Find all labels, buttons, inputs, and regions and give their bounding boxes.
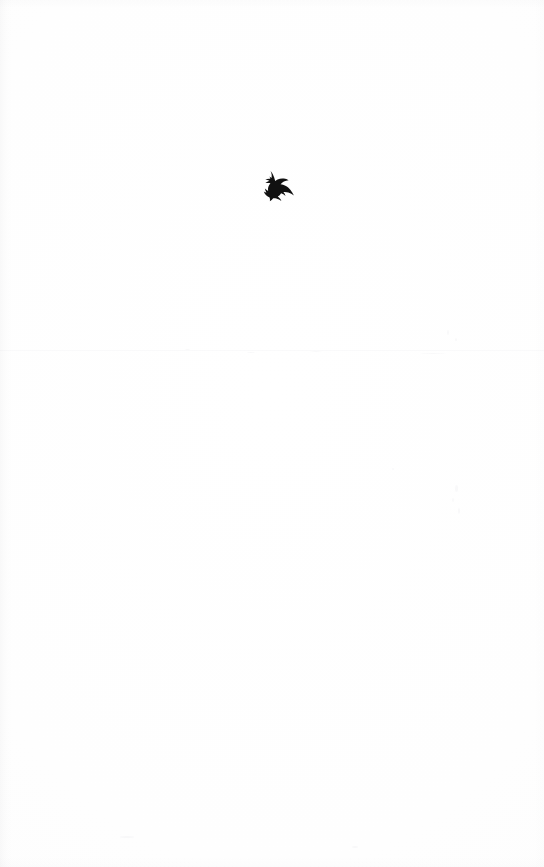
scan-artifact-horizontal-seam <box>0 350 544 351</box>
paper-fleck <box>458 508 460 514</box>
bird-silhouette: Silhouette of a bird in flight <box>262 170 298 212</box>
paper-fleck <box>120 836 134 838</box>
scanned-page: Silhouette of a bird in flight <box>0 0 544 867</box>
scan-artifact-bottom-edge <box>0 857 544 867</box>
bird-path <box>264 171 294 201</box>
scan-artifact-right-edge <box>534 0 544 867</box>
paper-fleck <box>455 338 457 341</box>
paper-background <box>0 0 544 867</box>
paper-fleck <box>185 349 190 350</box>
paper-fleck <box>455 485 458 492</box>
paper-fleck <box>452 498 454 502</box>
scan-artifact-left-edge <box>0 0 12 867</box>
paper-fleck <box>447 330 449 335</box>
scan-artifact-top-edge <box>0 0 544 8</box>
paper-fleck <box>310 351 322 352</box>
paper-fleck <box>420 353 446 354</box>
paper-fleck <box>392 468 394 470</box>
paper-fleck <box>247 352 255 353</box>
paper-fleck <box>352 846 358 848</box>
